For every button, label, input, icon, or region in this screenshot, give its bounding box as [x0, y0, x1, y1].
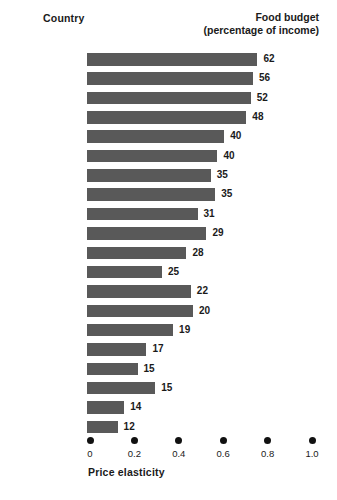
- axis-tick-label: 1.0: [292, 448, 332, 459]
- chart-bar: [87, 188, 216, 201]
- bar-value-label: 40: [230, 129, 241, 143]
- bar-value-label: 17: [152, 342, 163, 356]
- chart-bar: [87, 421, 118, 434]
- chart-bar: [87, 208, 198, 221]
- axis-tick-dot: [220, 437, 227, 444]
- chart-bar: [87, 324, 174, 337]
- bar-value-label: 52: [257, 91, 268, 105]
- chart-bar: [87, 285, 191, 298]
- chart-bar: [87, 227, 207, 240]
- bar-value-label: 22: [197, 284, 208, 298]
- bar-value-label: 31: [204, 207, 215, 221]
- food-budget-price-elasticity-chart: Country Food budget (percentage of incom…: [0, 0, 337, 500]
- bar-value-label: 48: [252, 110, 263, 124]
- x-axis-title: Price elasticity: [88, 466, 165, 478]
- chart-bar: [87, 247, 187, 260]
- axis-tick-label: 0.8: [248, 448, 288, 459]
- bar-value-label: 35: [217, 168, 228, 182]
- chart-bar: [87, 53, 258, 66]
- bar-value-label: 56: [259, 71, 270, 85]
- axis-tick-label: 0.4: [159, 448, 199, 459]
- bar-value-label: 25: [168, 265, 179, 279]
- chart-bar: [87, 150, 218, 163]
- axis-tick-dot: [131, 437, 138, 444]
- axis-tick-dot: [309, 437, 316, 444]
- chart-bar: [87, 169, 211, 182]
- bar-value-label: 28: [192, 246, 203, 260]
- axis-tick-dot: [175, 437, 182, 444]
- chart-bar: [87, 130, 225, 143]
- plot-area: Tanzania62India56Nigeria52Indonesia48Bol…: [0, 0, 337, 500]
- chart-bar: [87, 305, 194, 318]
- bar-value-label: 15: [144, 362, 155, 376]
- chart-bar: [87, 111, 247, 124]
- bar-value-label: 62: [263, 52, 274, 66]
- chart-bar: [87, 92, 251, 105]
- bar-value-label: 14: [130, 400, 141, 414]
- bar-value-label: 20: [199, 304, 210, 318]
- axis-tick-label: 0: [70, 448, 110, 459]
- bar-value-label: 12: [124, 420, 135, 434]
- bar-value-label: 35: [221, 187, 232, 201]
- bar-value-label: 29: [212, 226, 223, 240]
- chart-bar: [87, 382, 156, 395]
- axis-tick-dot: [264, 437, 271, 444]
- chart-bar: [87, 343, 147, 356]
- bar-value-label: 40: [223, 149, 234, 163]
- axis-tick-dot: [87, 437, 94, 444]
- axis-tick-label: 0.2: [114, 448, 154, 459]
- bar-value-label: 15: [161, 381, 172, 395]
- chart-bar: [87, 401, 125, 414]
- chart-bar: [87, 266, 162, 279]
- bar-value-label: 19: [179, 323, 190, 337]
- axis-tick-label: 0.6: [203, 448, 243, 459]
- chart-bar: [87, 363, 138, 376]
- chart-bar: [87, 72, 254, 85]
